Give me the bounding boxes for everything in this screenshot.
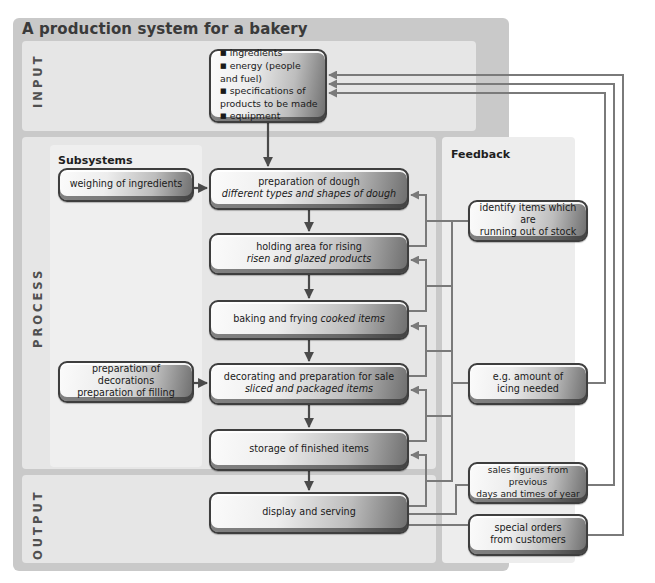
feedback-stock: identify items which are running out of … bbox=[468, 200, 588, 242]
input-item: energy (people and fuel) bbox=[220, 60, 321, 85]
input-item: ingredients bbox=[220, 47, 321, 60]
feedback-label: running out of stock bbox=[480, 226, 577, 238]
subsystem-label: preparation of filling bbox=[77, 387, 174, 399]
process-step-dough: preparation of dough different types and… bbox=[209, 168, 409, 210]
feedback-special-orders: special orders from customers bbox=[468, 514, 588, 556]
feedback-label: from customers bbox=[490, 534, 566, 546]
subsystem-label: weighing of ingredients bbox=[70, 178, 183, 190]
step-label: preparation of dough bbox=[258, 176, 359, 188]
subsystem-weighing: weighing of ingredients bbox=[58, 168, 194, 202]
process-step-rising: holding area for rising risen and glazed… bbox=[209, 233, 409, 275]
subsystem-label: preparation of decorations bbox=[64, 363, 188, 387]
feedback-label: e.g. amount of bbox=[493, 371, 563, 383]
process-section-label: PROCESS bbox=[31, 268, 45, 348]
feedback-label: icing needed bbox=[497, 383, 559, 395]
input-item: specifications of products to be made bbox=[220, 85, 321, 110]
step-detail: risen and glazed products bbox=[247, 253, 372, 265]
feedback-heading: Feedback bbox=[451, 148, 510, 161]
step-label: holding area for rising bbox=[256, 241, 362, 253]
feedback-label: identify items which are bbox=[474, 202, 582, 226]
subsystem-decorations: preparation of decorations preparation o… bbox=[58, 361, 194, 403]
input-item: equipment bbox=[220, 110, 321, 123]
process-step-decorating: decorating and preparation for sale slic… bbox=[209, 363, 409, 405]
process-step-storage: storage of finished items bbox=[209, 429, 409, 471]
output-section-label: OUTPUT bbox=[31, 489, 45, 560]
feedback-sales-figures: sales figures from previous days and tim… bbox=[468, 462, 588, 504]
feedback-label: special orders bbox=[494, 522, 561, 534]
step-label: storage of finished items bbox=[249, 443, 368, 455]
process-step-baking: baking and frying cooked items bbox=[209, 300, 409, 340]
step-label: baking and frying bbox=[233, 313, 317, 324]
subsystems-heading: Subsystems bbox=[58, 154, 133, 167]
input-resources-box: ingredients energy (people and fuel) spe… bbox=[209, 49, 327, 123]
feedback-label: days and times of year bbox=[476, 488, 579, 500]
output-label: display and serving bbox=[262, 506, 356, 518]
step-detail: cooked items bbox=[321, 313, 385, 324]
input-section-label: INPUT bbox=[31, 53, 45, 108]
step-detail: sliced and packaged items bbox=[245, 383, 373, 395]
step-detail: different types and shapes of dough bbox=[222, 188, 396, 200]
feedback-label: sales figures from previous bbox=[474, 464, 582, 488]
diagram-title: A production system for a bakery bbox=[22, 20, 308, 38]
feedback-icing: e.g. amount of icing needed bbox=[468, 363, 588, 405]
step-label: decorating and preparation for sale bbox=[224, 371, 394, 383]
output-display-box: display and serving bbox=[209, 492, 409, 534]
